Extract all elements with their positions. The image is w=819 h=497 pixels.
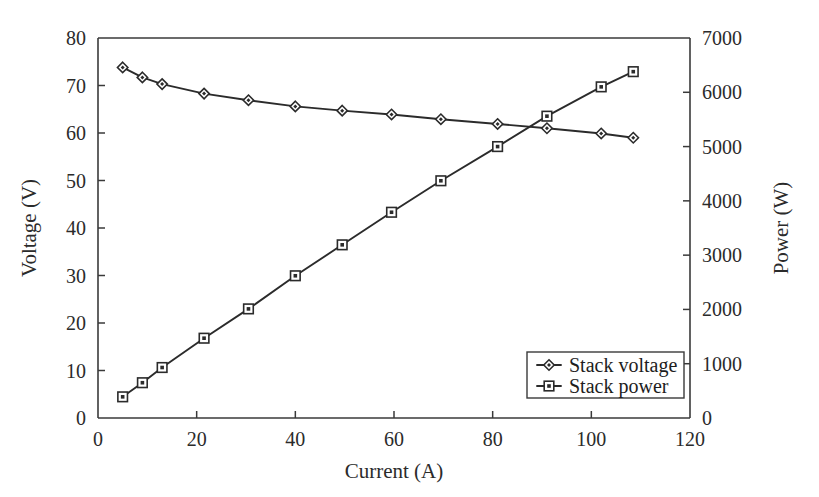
y-tick-label: 0: [76, 407, 86, 429]
x-tick-label: 0: [93, 428, 103, 450]
data-point-marker-core: [545, 114, 549, 118]
y-tick-label: 40: [66, 217, 86, 239]
y-tick-label: 10: [66, 360, 86, 382]
y-tick-label: 50: [66, 170, 86, 192]
y2-tick-label: 4000: [702, 190, 742, 212]
y2-tick-label: 6000: [702, 81, 742, 103]
data-point-marker-core: [160, 366, 164, 370]
data-point-marker-core: [390, 210, 394, 214]
data-point-marker-core: [141, 381, 145, 385]
y2-tick-label: 5000: [702, 136, 742, 158]
y-tick-label: 70: [66, 75, 86, 97]
data-point-marker-core: [247, 307, 251, 311]
data-point-marker-core: [631, 70, 635, 74]
x-tick-label: 100: [576, 428, 606, 450]
x-axis-title: Current (A): [345, 459, 444, 483]
data-point-marker-core: [294, 274, 298, 278]
chart-figure: 020406080100120Current (A)01020304050607…: [0, 0, 819, 497]
y2-tick-label: 7000: [702, 27, 742, 49]
y2-tick-label: 2000: [702, 298, 742, 320]
y-axis-title: Voltage (V): [17, 179, 41, 277]
series-line-1: [123, 67, 634, 137]
plot-area: 020406080100120Current (A)01020304050607…: [0, 0, 819, 497]
data-point-marker-core: [599, 85, 603, 89]
y-tick-label: 20: [66, 312, 86, 334]
y2-tick-label: 3000: [702, 244, 742, 266]
data-point-marker-core: [496, 145, 500, 149]
x-tick-label: 80: [483, 428, 503, 450]
legend-label-1: Stack voltage: [569, 354, 677, 377]
y-tick-label: 60: [66, 122, 86, 144]
data-point-marker-core: [202, 336, 206, 340]
data-point-marker-core: [439, 179, 443, 183]
data-point-marker-core: [340, 243, 344, 247]
legend-marker-square-core: [547, 384, 551, 388]
y2-tick-label: 1000: [702, 353, 742, 375]
series-line-2: [123, 72, 634, 397]
data-point-marker-core: [121, 395, 125, 399]
legend-label-2: Stack power: [569, 375, 669, 398]
x-tick-label: 20: [187, 428, 207, 450]
x-tick-label: 60: [384, 428, 404, 450]
y2-tick-label: 0: [702, 407, 712, 429]
y2-axis-title: Power (W): [769, 182, 793, 275]
x-tick-label: 120: [675, 428, 705, 450]
y-tick-label: 80: [66, 27, 86, 49]
y-tick-label: 30: [66, 265, 86, 287]
x-tick-label: 40: [285, 428, 305, 450]
